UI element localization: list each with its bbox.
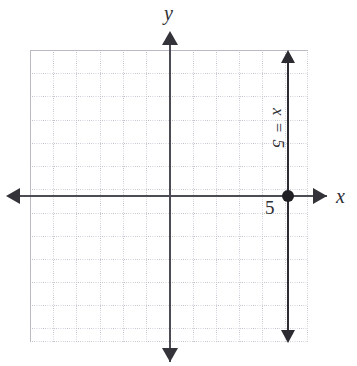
equation-label: x = 5 — [268, 108, 288, 149]
coordinate-plane-figure: y x 5 x = 5 — [0, 0, 357, 366]
plot-line-down-arrow-icon — [281, 330, 295, 343]
plot-line-up-arrow-icon — [281, 50, 295, 63]
x-intercept-point — [282, 190, 294, 202]
y-axis-down-arrow-icon — [162, 348, 178, 362]
y-axis-label: y — [164, 2, 173, 25]
y-axis — [169, 33, 171, 362]
y-axis-up-arrow-icon — [162, 31, 178, 45]
x-axis-right-arrow-icon — [313, 188, 327, 204]
x-axis — [8, 195, 327, 197]
x-axis-left-arrow-icon — [6, 188, 20, 204]
x-axis-label: x — [336, 185, 345, 208]
x-intercept-label: 5 — [265, 197, 275, 219]
